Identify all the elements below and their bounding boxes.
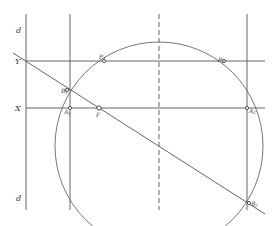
label-a1-sub: 1 [68, 111, 71, 116]
label-x: X [14, 104, 21, 113]
label-b1-sub: 1 [65, 90, 68, 95]
point-f [97, 106, 101, 110]
label-p1-sub: 1 [103, 56, 106, 61]
label-y: Y [15, 57, 21, 66]
label-f: F [95, 111, 101, 118]
label-b2-sub: 2 [254, 203, 258, 208]
point-a1 [68, 106, 71, 109]
label-a2-sub: 2 [252, 110, 256, 115]
diagonal-secant-line [13, 53, 265, 214]
label-d-top: d [16, 26, 21, 35]
label-d-bottom: d [16, 194, 21, 203]
label-p2-sub: 2 [221, 59, 225, 64]
geometric-diagram: d d Y X P 1 P 2 B 1 A 1 F A 2 B 2 [0, 0, 278, 226]
